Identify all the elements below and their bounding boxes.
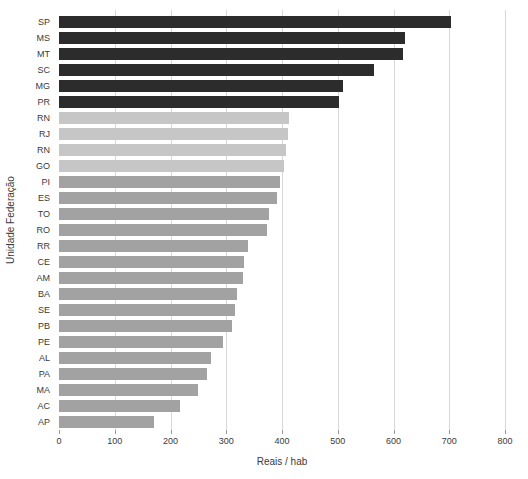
bar-PE-20: [59, 336, 223, 348]
bar-row: RO: [0, 222, 528, 238]
x-tick-label-400: 400: [262, 436, 302, 446]
bar-row: SP: [0, 14, 528, 30]
bar-row: BA: [0, 286, 528, 302]
bar-row: MA: [0, 382, 528, 398]
category-label: PR: [0, 94, 59, 110]
bar-track: [59, 176, 505, 188]
bar-track: [59, 400, 505, 412]
bar-track: [59, 16, 505, 28]
bar-row: AP: [0, 414, 528, 430]
category-label: PA: [0, 366, 59, 382]
bar-RN-8: [59, 144, 286, 156]
bar-track: [59, 64, 505, 76]
category-label: AC: [0, 398, 59, 414]
x-tick-label-100: 100: [95, 436, 135, 446]
bar-track: [59, 160, 505, 172]
bar-row: MG: [0, 78, 528, 94]
x-tick-200: [171, 430, 172, 434]
category-label: RJ: [0, 126, 59, 142]
bar-track: [59, 112, 505, 124]
category-label: PE: [0, 334, 59, 350]
bar-track: [59, 256, 505, 268]
bar-track: [59, 416, 505, 428]
x-tick-0: [59, 430, 60, 434]
bar-track: [59, 384, 505, 396]
category-label: PI: [0, 174, 59, 190]
bar-row: RN: [0, 110, 528, 126]
bar-track: [59, 272, 505, 284]
x-tick-700: [449, 430, 450, 434]
bar-GO-9: [59, 160, 284, 172]
category-label: GO: [0, 158, 59, 174]
bar-track: [59, 96, 505, 108]
bar-CE-15: [59, 256, 244, 268]
bar-MG-4: [59, 80, 343, 92]
bar-row: AM: [0, 270, 528, 286]
bar-track: [59, 368, 505, 380]
x-axis-title: Reais / hab: [59, 456, 505, 467]
bar-row: RR: [0, 238, 528, 254]
x-tick-label-600: 600: [374, 436, 414, 446]
bar-MS-1: [59, 32, 405, 44]
category-label: RO: [0, 222, 59, 238]
bar-row: PA: [0, 366, 528, 382]
bar-row: PR: [0, 94, 528, 110]
bar-row: RN: [0, 142, 528, 158]
bar-RO-13: [59, 224, 267, 236]
bar-AC-24: [59, 400, 180, 412]
bar-track: [59, 224, 505, 236]
category-label: AM: [0, 270, 59, 286]
bar-track: [59, 128, 505, 140]
x-tick-300: [226, 430, 227, 434]
bar-row: SC: [0, 62, 528, 78]
x-tick-label-200: 200: [151, 436, 191, 446]
category-label: MS: [0, 30, 59, 46]
bar-AM-16: [59, 272, 243, 284]
bar-track: [59, 32, 505, 44]
bar-AL-21: [59, 352, 211, 364]
bar-RR-14: [59, 240, 248, 252]
x-tick-600: [394, 430, 395, 434]
bar-row: TO: [0, 206, 528, 222]
category-label: CE: [0, 254, 59, 270]
x-axis-tick-labels: 0100200300400500600700800: [59, 436, 505, 448]
bar-track: [59, 304, 505, 316]
x-tick-label-800: 800: [485, 436, 525, 446]
category-label: BA: [0, 286, 59, 302]
category-label: RN: [0, 110, 59, 126]
category-label: RR: [0, 238, 59, 254]
x-tick-100: [115, 430, 116, 434]
x-tick-label-700: 700: [429, 436, 469, 446]
x-tick-label-500: 500: [318, 436, 358, 446]
category-label: MG: [0, 78, 59, 94]
bar-row: AC: [0, 398, 528, 414]
bar-row: GO: [0, 158, 528, 174]
x-tick-400: [282, 430, 283, 434]
bar-PA-22: [59, 368, 207, 380]
category-label: AL: [0, 350, 59, 366]
bar-track: [59, 48, 505, 60]
category-label: MT: [0, 46, 59, 62]
bar-MT-2: [59, 48, 403, 60]
bar-RN-6: [59, 112, 289, 124]
bar-PB-19: [59, 320, 232, 332]
bar-row: PB: [0, 318, 528, 334]
bar-chart-figure: Unidade Federação SPMSMTSCMGPRRNRJRNGOPI…: [0, 0, 528, 479]
bar-track: [59, 144, 505, 156]
bar-ES-11: [59, 192, 277, 204]
bar-MA-23: [59, 384, 198, 396]
bar-track: [59, 80, 505, 92]
bar-track: [59, 208, 505, 220]
bar-track: [59, 336, 505, 348]
bar-PR-5: [59, 96, 339, 108]
category-label: SC: [0, 62, 59, 78]
x-tick-800: [505, 430, 506, 434]
bar-row: MS: [0, 30, 528, 46]
bar-BA-17: [59, 288, 237, 300]
bar-row: MT: [0, 46, 528, 62]
category-label: RN: [0, 142, 59, 158]
bar-SP-0: [59, 16, 451, 28]
category-label: PB: [0, 318, 59, 334]
bar-AP-25: [59, 416, 154, 428]
category-label: ES: [0, 190, 59, 206]
